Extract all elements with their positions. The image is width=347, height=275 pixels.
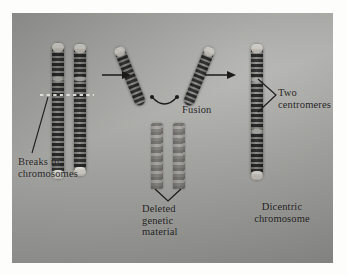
acentric-fragment-right xyxy=(173,123,185,189)
photographic-plate: Breaks in chromosomes Fusion Deleted gen… xyxy=(12,13,333,263)
centromere-constriction xyxy=(50,76,67,82)
telomere-cap-top xyxy=(113,45,127,57)
chromosome-fusing-left xyxy=(113,45,146,107)
label-deleted-genetic-material: Deleted genetic material xyxy=(142,203,212,238)
deleted-material-bracket xyxy=(155,189,181,201)
telomere-cap-bottom xyxy=(251,171,263,180)
label-two-centromeres: Two centromeres xyxy=(278,87,333,110)
fusion-arc xyxy=(150,95,179,104)
process-arrow-2 xyxy=(205,71,236,79)
label-dicentric-chromosome: Dicentric chromosome xyxy=(234,201,330,224)
telomere-cap-top xyxy=(74,44,86,53)
centromere-constriction xyxy=(72,76,89,82)
diagram-stage: Breaks in chromosomes Fusion Deleted gen… xyxy=(12,13,333,263)
telomere-cap-top xyxy=(202,45,216,57)
label-breaks-in-chromosomes: Breaks in chromosomes xyxy=(18,156,110,179)
centromere-constriction-lower xyxy=(249,128,266,134)
telomere-cap-top xyxy=(251,44,263,53)
telomere-cap-top xyxy=(52,43,64,52)
label-fusion: Fusion xyxy=(182,104,212,116)
figure-container: Breaks in chromosomes Fusion Deleted gen… xyxy=(0,0,347,275)
acentric-fragment-left xyxy=(151,123,163,189)
chromosome-fusing-right xyxy=(182,45,215,107)
centromere-constriction-upper xyxy=(249,77,266,83)
dicentric-chromosome xyxy=(251,44,263,180)
breaks-leader-line xyxy=(32,97,48,153)
